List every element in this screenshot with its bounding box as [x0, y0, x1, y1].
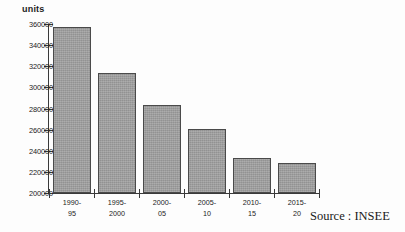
- bar: [98, 73, 136, 193]
- x-tick-label: 1995-2000: [92, 198, 142, 219]
- x-tick-label: 1990-95: [47, 198, 97, 219]
- x-tick-label-line: 2000: [92, 209, 142, 220]
- x-tick-label-line: 1990-: [47, 198, 97, 209]
- y-tick-label: 360000: [11, 20, 53, 29]
- x-tick-label-line: 2015-: [272, 198, 322, 209]
- x-tick-label-line: 2010-: [227, 198, 277, 209]
- x-tick-label: 2005-10: [182, 198, 232, 219]
- bar: [53, 27, 91, 193]
- x-tick-mark: [184, 189, 185, 198]
- x-tick-label: 2000-05: [137, 198, 187, 219]
- y-tick-label: 320000: [11, 62, 53, 71]
- y-tick-label: 240000: [11, 147, 53, 156]
- x-tick-label-line: 10: [182, 209, 232, 220]
- x-tick-label-line: 2005-: [182, 198, 232, 209]
- y-tick-label: 220000: [11, 168, 53, 177]
- bar: [278, 163, 316, 193]
- x-tick-label-line: 2000-: [137, 198, 187, 209]
- bar: [188, 129, 226, 193]
- x-tick-label-line: 15: [227, 209, 277, 220]
- bar-chart: units 3600003400003200003000002800002600…: [0, 0, 405, 232]
- y-tick-label: 280000: [11, 105, 53, 114]
- x-tick-mark: [274, 189, 275, 198]
- x-tick-label-line: 1995-: [92, 198, 142, 209]
- y-axis-units-label: units: [22, 4, 45, 14]
- y-tick-label: 300000: [11, 83, 53, 92]
- x-tick-mark: [319, 189, 320, 198]
- x-tick-label-line: 95: [47, 209, 97, 220]
- y-tick-label: 260000: [11, 126, 53, 135]
- x-tick-mark: [94, 189, 95, 198]
- y-tick-label: 340000: [11, 41, 53, 50]
- bar: [143, 105, 181, 193]
- bar: [233, 158, 271, 193]
- source-note: Source : INSEE: [310, 209, 390, 224]
- x-tick-mark: [229, 189, 230, 198]
- chart-screenshot: units 3600003400003200003000002800002600…: [0, 0, 405, 232]
- x-tick-mark: [139, 189, 140, 198]
- x-tick-mark: [49, 189, 50, 198]
- x-tick-label: 2010-15: [227, 198, 277, 219]
- y-tick-label: 200000: [11, 189, 53, 198]
- x-tick-label-line: 05: [137, 209, 187, 220]
